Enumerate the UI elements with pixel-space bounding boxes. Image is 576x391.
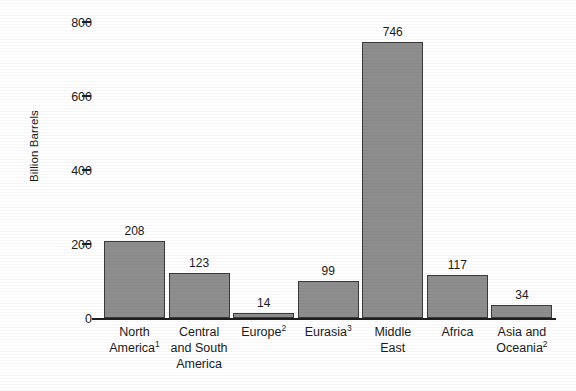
y-axis-tick-mark (82, 95, 91, 97)
bar[interactable] (491, 305, 552, 318)
y-axis-tick: 200 (0, 237, 92, 251)
bar-group[interactable]: 746MiddleEast (362, 22, 423, 318)
bar-chart: Billion Barrels 8006004002000 208NorthAm… (0, 0, 576, 391)
plot-area: 208NorthAmerica1123Centraland SouthAmeri… (104, 22, 556, 318)
bar[interactable] (233, 313, 294, 318)
x-axis-label-line: America (135, 356, 264, 372)
bar-group[interactable]: 123Centraland SouthAmerica (169, 22, 230, 318)
footnote-marker: 2 (543, 339, 548, 349)
bar-value-label: 34 (463, 288, 576, 302)
x-axis-label-line: Oceania2 (457, 340, 576, 356)
x-axis-line (92, 318, 556, 320)
x-axis-category-label: Asia andOceania2 (457, 324, 576, 356)
y-axis-tick-label: 600 (71, 90, 92, 104)
y-axis-tick-label: 400 (71, 164, 92, 178)
y-axis-tick-mark (82, 169, 91, 171)
y-axis-tick-mark (82, 243, 91, 245)
bar[interactable] (104, 241, 165, 318)
bar-group[interactable]: 208NorthAmerica1 (104, 22, 165, 318)
bar[interactable] (362, 42, 423, 318)
x-axis-label-line: East (328, 340, 457, 356)
y-axis-tick: 800 (0, 15, 92, 29)
y-axis-tick: 0 (0, 311, 92, 325)
y-axis-tick-label: 200 (71, 238, 92, 252)
x-axis-label-line: Asia and (457, 324, 576, 340)
y-axis-tick: 400 (0, 163, 92, 177)
y-axis-tick: 600 (0, 89, 92, 103)
bar-group[interactable]: 99Eurasia3 (298, 22, 359, 318)
y-axis-tick-mark (82, 21, 91, 23)
x-axis-label-line: and South (135, 340, 264, 356)
bar[interactable] (298, 281, 359, 318)
y-axis-tick-label: 800 (71, 16, 92, 30)
bar-group[interactable]: 34Asia andOceania2 (491, 22, 552, 318)
bar-group[interactable]: 117Africa (427, 22, 488, 318)
